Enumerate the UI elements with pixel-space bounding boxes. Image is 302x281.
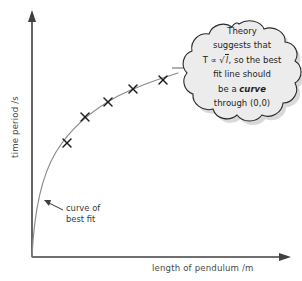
data-point-marker bbox=[159, 76, 167, 84]
data-point-marker bbox=[129, 85, 137, 93]
x-axis-label: length of pendulum /m bbox=[152, 263, 254, 273]
thought-bubble-text: Theory suggests that T ∝ √l, so the best… bbox=[190, 24, 294, 110]
bubble-line-3: T ∝ √l, so the best bbox=[190, 53, 294, 67]
data-point-marker bbox=[104, 98, 112, 106]
data-point-marker bbox=[63, 139, 71, 147]
x-axis-arrowhead bbox=[279, 253, 291, 261]
bubble-line-4: fit line should bbox=[190, 67, 294, 81]
y-axis-label: time period /s bbox=[10, 91, 20, 163]
pendulum-graph-figure: Theory suggests that T ∝ √l, so the best… bbox=[0, 0, 302, 281]
curve-of-best-fit-annotation: curve of best fit bbox=[66, 203, 100, 224]
bubble-line-1: Theory bbox=[190, 24, 294, 38]
bubble-formula-suffix: , so the best bbox=[229, 55, 282, 65]
radical-icon: √ bbox=[219, 55, 224, 65]
bubble-line-5-prefix: be a bbox=[218, 84, 239, 94]
annotation-line-1: curve of bbox=[66, 203, 100, 214]
bubble-line-2: suggests that bbox=[190, 38, 294, 52]
annotation-leader-arrowhead bbox=[44, 200, 51, 206]
y-axis-arrowhead bbox=[28, 10, 36, 22]
data-point-marker bbox=[81, 113, 89, 121]
curve-of-best-fit bbox=[32, 73, 178, 257]
annotation-line-2: best fit bbox=[66, 214, 100, 225]
bubble-line-5: be a curve bbox=[190, 82, 294, 96]
bubble-line-5-emphasis: curve bbox=[239, 84, 266, 94]
bubble-line-6: through (0,0) bbox=[190, 96, 294, 110]
bubble-formula-prefix: T ∝ bbox=[203, 55, 220, 65]
